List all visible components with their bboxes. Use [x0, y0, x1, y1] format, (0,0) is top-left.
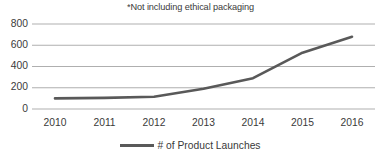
- legend-label: # of Product Launches: [157, 140, 260, 151]
- x-axis-tick-label: 2012: [134, 118, 174, 128]
- plot-area: [0, 0, 381, 162]
- x-axis-tick-label: 2013: [184, 118, 224, 128]
- chart-legend: # of Product Launches: [0, 140, 381, 151]
- x-axis-tick-label: 2014: [233, 118, 273, 128]
- y-axis-tick-label: 0: [0, 104, 28, 114]
- data-series-group: [55, 37, 352, 99]
- gridlines: [32, 24, 375, 109]
- y-axis-tick-label: 600: [0, 40, 28, 50]
- y-axis-tick-label: 800: [0, 19, 28, 29]
- x-axis-tick-label: 2010: [35, 118, 75, 128]
- line-chart: *Not including ethical packaging 0200400…: [0, 0, 381, 162]
- x-axis-tick-label: 2016: [332, 118, 372, 128]
- y-axis-tick-label: 200: [0, 82, 28, 92]
- x-axis-tick-label: 2011: [85, 118, 125, 128]
- x-axis-tick-label: 2015: [283, 118, 323, 128]
- series-line: [55, 37, 352, 99]
- line-swatch: [120, 144, 154, 147]
- y-axis-tick-label: 400: [0, 61, 28, 71]
